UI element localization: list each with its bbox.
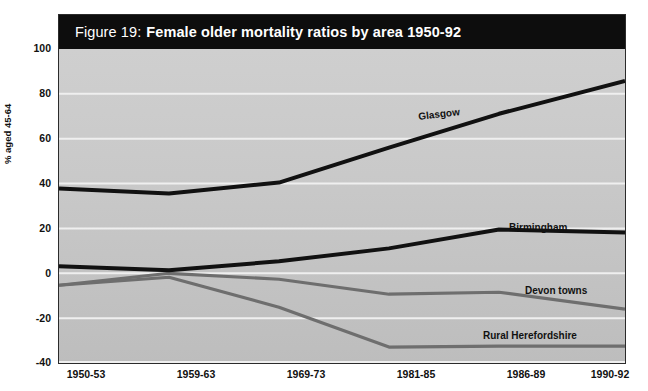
x-tick-1969-73: 1969-73: [287, 368, 326, 380]
x-tick-1990-92: 1990-92: [591, 368, 630, 380]
y-tick-100: 100: [33, 42, 51, 54]
x-axis: 1950-53 1959-63 1969-73 1981-85 1986-89 …: [0, 368, 648, 388]
series-label-rural-herefordshire: Rural Herefordshire: [483, 330, 577, 341]
y-axis: 100 80 60 40 20 0 -20 -40 % aged 45-64: [0, 14, 58, 364]
x-tick-1959-63: 1959-63: [177, 368, 216, 380]
series-line-glasgow: [59, 81, 625, 194]
x-tick-1981-85: 1981-85: [397, 368, 436, 380]
page-title: Female older mortality ratios by area 19…: [146, 24, 461, 40]
plot-svg: [59, 49, 625, 363]
chart-frame: Figure 19: Female older mortality ratios…: [58, 14, 626, 364]
y-tick-0: 0: [45, 267, 51, 279]
y-tick-40: 40: [39, 177, 51, 189]
y-tick-60: 60: [39, 132, 51, 144]
figure-container: 100 80 60 40 20 0 -20 -40 % aged 45-64 F…: [0, 0, 648, 391]
chart-title-band: Figure 19: Female older mortality ratios…: [59, 15, 625, 49]
x-tick-1986-89: 1986-89: [507, 368, 546, 380]
figure-number: Figure 19:: [75, 24, 141, 40]
series-label-birmingham: Birmingham: [509, 222, 567, 233]
y-tick-neg20: -20: [36, 312, 51, 324]
y-tick-neg40: -40: [36, 356, 51, 368]
x-tick-1950-53: 1950-53: [67, 368, 106, 380]
series-label-devon-towns: Devon towns: [525, 285, 587, 296]
y-tick-20: 20: [39, 222, 51, 234]
y-tick-80: 80: [39, 87, 51, 99]
y-axis-title: % aged 45-64: [2, 104, 13, 164]
plot-area: Glasgow Birmingham Devon towns Rural Her…: [59, 49, 625, 363]
series-line-birmingham: [59, 229, 625, 270]
